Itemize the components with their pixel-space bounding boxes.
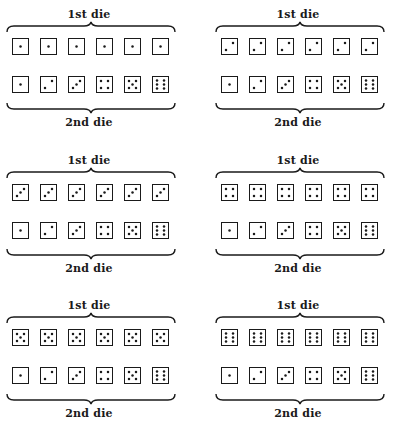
first-die-face-5 [152, 329, 169, 346]
second-die-face-4 [96, 367, 113, 384]
pips-2-icon [41, 368, 56, 383]
panel-first-die-6: 1st die2nd die [213, 299, 393, 425]
second-die-face-4 [96, 222, 113, 239]
pips-3-icon [278, 77, 293, 92]
first-die-label: 1st die [213, 8, 383, 21]
second-die-face-5 [333, 76, 350, 93]
second-die-face-5 [124, 76, 141, 93]
bottom-brace [215, 393, 385, 405]
first-die-face-5 [40, 329, 57, 346]
second-die-row [221, 367, 378, 384]
first-die-row [12, 329, 169, 346]
bottom-brace [215, 248, 385, 260]
top-brace [215, 21, 385, 33]
pips-3-icon [125, 185, 140, 200]
pips-5-icon [125, 77, 140, 92]
second-die-face-4 [305, 222, 322, 239]
pips-2-icon [334, 39, 349, 54]
pips-1-icon [13, 223, 28, 238]
top-brace [6, 167, 176, 179]
second-die-face-5 [333, 222, 350, 239]
pips-2-icon [278, 39, 293, 54]
pips-6-icon [362, 223, 377, 238]
first-die-face-1 [68, 38, 85, 55]
first-die-row [12, 184, 169, 201]
second-die-face-6 [152, 367, 169, 384]
pips-4-icon [306, 77, 321, 92]
second-die-face-1 [12, 76, 29, 93]
pips-5-icon [125, 368, 140, 383]
pips-6-icon [153, 368, 168, 383]
second-die-face-1 [12, 222, 29, 239]
second-die-face-3 [277, 367, 294, 384]
second-die-row [221, 76, 378, 93]
second-die-row [221, 222, 378, 239]
first-die-label: 1st die [213, 154, 383, 167]
second-die-face-1 [221, 222, 238, 239]
second-die-row [12, 222, 169, 239]
pips-1-icon [153, 39, 168, 54]
second-die-label: 2nd die [4, 116, 174, 129]
bottom-brace [6, 102, 176, 114]
first-die-face-5 [96, 329, 113, 346]
first-die-face-3 [68, 184, 85, 201]
bottom-brace [6, 248, 176, 260]
second-die-face-4 [305, 76, 322, 93]
panel-first-die-1: 1st die2nd die [4, 8, 184, 138]
first-die-face-5 [124, 329, 141, 346]
second-die-face-3 [68, 222, 85, 239]
second-die-face-5 [124, 367, 141, 384]
pips-2-icon [41, 223, 56, 238]
first-die-face-4 [333, 184, 350, 201]
pips-1-icon [222, 368, 237, 383]
second-die-face-6 [361, 367, 378, 384]
first-die-face-1 [124, 38, 141, 55]
bottom-brace [215, 102, 385, 114]
pips-3-icon [153, 185, 168, 200]
pips-3-icon [278, 223, 293, 238]
pips-6-icon [334, 330, 349, 345]
pips-3-icon [69, 368, 84, 383]
pips-2-icon [41, 77, 56, 92]
pips-3-icon [278, 368, 293, 383]
first-die-face-3 [152, 184, 169, 201]
second-die-face-6 [361, 76, 378, 93]
pips-5-icon [125, 223, 140, 238]
second-die-face-4 [305, 367, 322, 384]
pips-4-icon [306, 185, 321, 200]
top-brace [6, 312, 176, 324]
first-die-label: 1st die [213, 299, 383, 312]
pips-4-icon [278, 185, 293, 200]
pips-4-icon [97, 368, 112, 383]
second-die-face-2 [249, 76, 266, 93]
first-die-face-4 [249, 184, 266, 201]
top-brace [6, 21, 176, 33]
pips-4-icon [97, 223, 112, 238]
second-die-face-3 [68, 76, 85, 93]
panel-first-die-5: 1st die2nd die [4, 299, 184, 425]
pips-4-icon [306, 223, 321, 238]
panel-first-die-4: 1st die2nd die [213, 154, 393, 284]
second-die-face-2 [40, 222, 57, 239]
pips-6-icon [306, 330, 321, 345]
first-die-face-1 [12, 38, 29, 55]
first-die-face-4 [221, 184, 238, 201]
second-die-face-3 [277, 76, 294, 93]
first-die-face-4 [305, 184, 322, 201]
pips-1-icon [125, 39, 140, 54]
second-die-face-2 [249, 367, 266, 384]
first-die-face-5 [12, 329, 29, 346]
pips-1-icon [222, 223, 237, 238]
pips-2-icon [250, 223, 265, 238]
second-die-face-6 [361, 222, 378, 239]
pips-4-icon [334, 185, 349, 200]
second-die-face-1 [221, 76, 238, 93]
pips-6-icon [362, 77, 377, 92]
second-die-label: 2nd die [4, 262, 174, 275]
pips-1-icon [13, 77, 28, 92]
first-die-face-1 [96, 38, 113, 55]
first-die-label: 1st die [4, 8, 174, 21]
pips-2-icon [222, 39, 237, 54]
pips-2-icon [250, 77, 265, 92]
panel-first-die-2: 1st die2nd die [213, 8, 393, 138]
